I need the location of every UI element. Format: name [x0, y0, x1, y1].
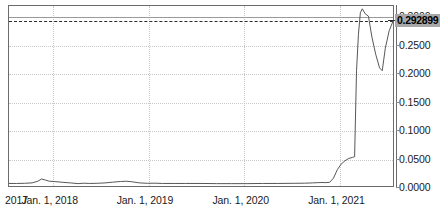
x-axis-label: Jan. 1, 2019 — [117, 194, 174, 206]
y-axis-label: 0.0500 — [399, 154, 431, 165]
y-axis-label: 0.2500 — [399, 40, 431, 51]
y-axis: 0.30000.25000.20000.15000.10000.05000.00… — [396, 0, 445, 192]
plot-inner — [9, 6, 393, 186]
x-axis: 2017Jan. 1, 2018Jan. 1, 2019Jan. 1, 2020… — [0, 192, 445, 214]
y-axis-label: 0.1000 — [399, 125, 431, 136]
y-axis-label: 0.1500 — [399, 97, 431, 108]
y-axis-label: 0.2000 — [399, 68, 431, 79]
plot-area — [8, 5, 394, 187]
x-axis-label: Jan. 1, 2021 — [308, 194, 365, 206]
x-axis-label: Jan. 1, 2020 — [212, 194, 269, 206]
price-series — [9, 6, 393, 186]
y-axis-tick — [396, 102, 400, 103]
price-line — [9, 9, 393, 184]
stock-price-chart: 0.30000.25000.20000.15000.10000.05000.00… — [0, 0, 445, 220]
y-axis-tick — [396, 159, 400, 160]
y-axis-tick — [396, 187, 400, 188]
y-axis-tick — [396, 45, 400, 46]
y-axis-tick — [396, 130, 400, 131]
x-axis-label: Jan. 1, 2018 — [21, 194, 78, 206]
y-axis-tick — [396, 73, 400, 74]
y-axis-rule — [396, 5, 397, 187]
y-axis-label: 0.0000 — [399, 182, 431, 193]
current-price-tag[interactable]: 0.292899 — [395, 14, 440, 27]
